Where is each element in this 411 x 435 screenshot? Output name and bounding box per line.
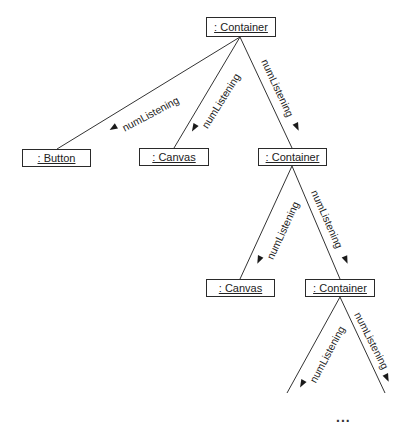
node-label: : Container [313,282,367,294]
node-label: : Container [214,21,268,33]
node-canvas: : Canvas [139,148,209,166]
node-canvas-lower: : Canvas [206,279,275,297]
arrow-icon [108,123,118,132]
node-root-container: : Container [206,17,276,37]
node-container-lower: : Container [305,279,375,297]
arrow-icon [383,373,392,383]
arrow-icon [255,255,264,265]
edge-line-root-button [57,37,240,149]
object-diagram: : Container : Button : Canvas : Containe… [0,0,411,435]
node-label: : Canvas [152,151,195,163]
node-label: : Button [38,152,76,164]
arrow-icon [297,379,306,389]
node-label: : Container [266,151,320,163]
continuation-ellipsis: ... [336,409,351,425]
node-label: : Canvas [219,282,262,294]
arrow-icon [189,123,198,133]
arrow-icon [342,255,351,265]
arrow-icon [293,122,302,132]
node-button: : Button [22,149,91,167]
edge-layer [0,0,411,435]
node-container: : Container [258,148,327,166]
